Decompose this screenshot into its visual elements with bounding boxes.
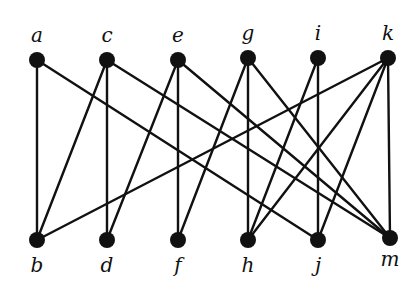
edge-k-b [37,58,388,240]
vertex-d [99,232,115,248]
vertex-label-b: b [31,253,44,277]
vertex-g [240,50,256,66]
vertex-label-f: f [172,253,185,277]
edge-i-h [248,58,318,240]
vertex-f [170,232,186,248]
vertex-label-m: m [381,247,400,271]
edge-c-b [37,60,107,240]
vertex-label-h: h [242,253,255,277]
vertex-label-e: e [172,23,184,47]
bipartite-graph-diagram: acegikbdfhjm [0,0,415,289]
vertex-i [310,50,326,66]
vertex-label-d: d [101,253,114,277]
vertex-label-a: a [31,23,43,47]
vertex-a [29,52,45,68]
vertex-label-g: g [242,21,255,45]
vertex-label-k: k [382,21,394,45]
vertex-b [29,232,45,248]
vertex-label-i: i [315,21,321,45]
vertex-c [99,52,115,68]
vertex-j [310,232,326,248]
vertex-label-j: j [311,253,321,277]
vertex-h [240,232,256,248]
edge-k-m [388,58,390,238]
vertex-m [382,230,398,246]
edges-layer [37,58,390,240]
edge-k-j [318,58,388,240]
edge-e-d [107,60,178,240]
vertex-k [380,50,396,66]
vertex-e [170,52,186,68]
vertex-label-c: c [101,23,112,47]
